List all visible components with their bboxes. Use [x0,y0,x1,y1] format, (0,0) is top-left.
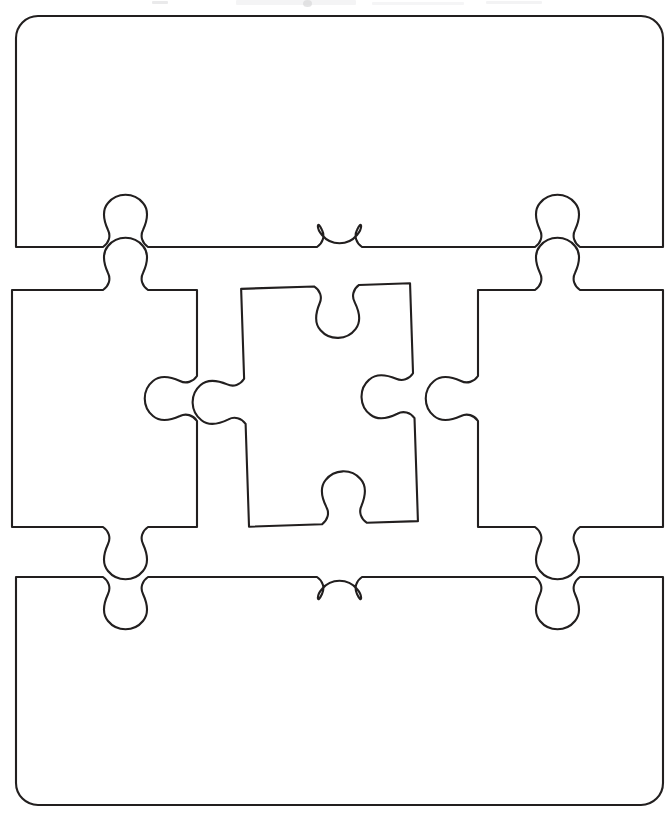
piece-middle-right[interactable] [426,238,663,580]
piece-middle-center[interactable] [189,283,418,528]
piece-bottom-banner[interactable] [16,577,663,805]
puzzle-worksheet [0,0,670,820]
piece-middle-left[interactable] [12,238,197,580]
puzzle-template-canvas [0,0,670,820]
piece-top-banner[interactable] [16,16,663,247]
piece-middle-center-group [189,283,418,528]
